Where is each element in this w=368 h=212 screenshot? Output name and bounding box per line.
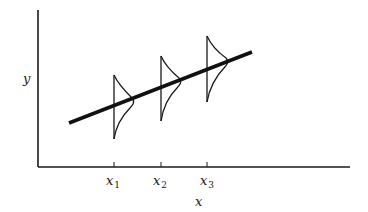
diagram-drawing (0, 0, 368, 212)
tick-label-x3-sub: 3 (208, 180, 214, 190)
tick-label-x3: x3 (200, 174, 214, 190)
tick-label-x1-base: x (106, 173, 113, 188)
regression-diagram: y x x1 x2 x3 (0, 0, 368, 212)
y-axis-label: y (23, 72, 30, 85)
distribution-x2 (161, 56, 181, 121)
tick-label-x2-sub: 2 (161, 180, 167, 190)
tick-label-x3-base: x (200, 173, 207, 188)
tick-label-x1: x1 (106, 174, 120, 190)
distribution-x1 (114, 75, 134, 139)
tick-label-x2-base: x (153, 173, 160, 188)
tick-label-x2: x2 (153, 174, 167, 190)
x-axis-label: x (195, 195, 202, 208)
tick-label-x1-sub: 1 (114, 180, 120, 190)
